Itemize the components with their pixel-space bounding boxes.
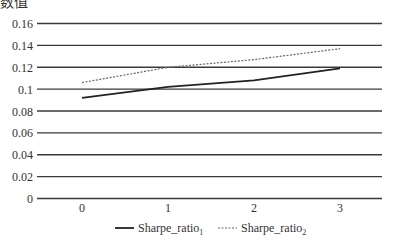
y-tick-label: 0.06 (12, 126, 33, 140)
series-line-1 (82, 68, 340, 98)
y-tick-label: 0.1 (18, 83, 33, 97)
y-tick-label: 0.12 (12, 61, 33, 75)
x-tick-label: 1 (165, 201, 171, 215)
y-tick-label: 0.08 (12, 105, 33, 119)
legend-label-2: Sharpe_ratio2 (241, 221, 306, 237)
y-tick-label: 0.16 (12, 17, 33, 31)
y-tick-label: 0.02 (12, 170, 33, 184)
legend-label-1: Sharpe_ratio1 (138, 221, 203, 237)
x-tick-label: 2 (251, 201, 257, 215)
y-tick-label: 0.04 (12, 148, 33, 162)
gridlines (37, 24, 382, 199)
y-tick-label: 0.14 (12, 39, 33, 53)
series-line-2 (82, 49, 340, 83)
line-chart: 00.020.040.060.080.10.120.140.16 0123 Sh… (0, 0, 393, 244)
legend: Sharpe_ratio1Sharpe_ratio2 (115, 221, 306, 237)
data-series (82, 49, 340, 98)
x-tick-label: 0 (79, 201, 85, 215)
x-axis-tick-labels: 0123 (79, 201, 343, 215)
y-tick-label: 0 (27, 192, 33, 206)
x-tick-label: 3 (337, 201, 343, 215)
y-axis-tick-labels: 00.020.040.060.080.10.120.140.16 (12, 17, 33, 206)
